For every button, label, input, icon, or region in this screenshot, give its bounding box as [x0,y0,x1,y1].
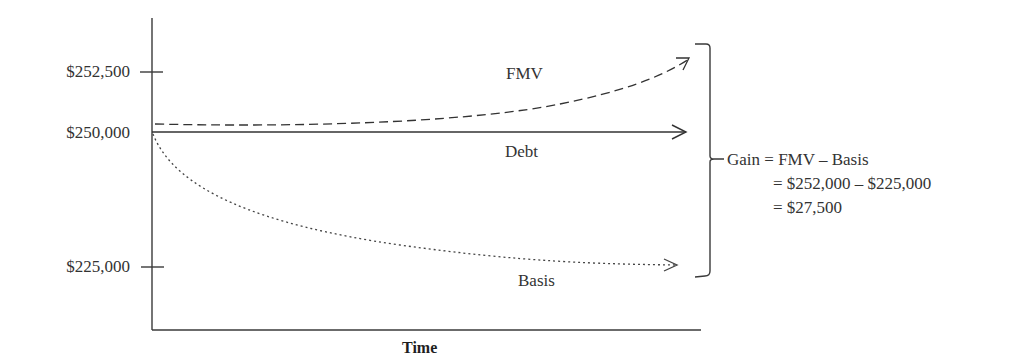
y-tick-label-225000: $225,000 [0,257,130,277]
basis-arrowhead-icon [664,259,677,271]
gain-brace [695,44,724,277]
gain-line-3: = $27,500 [773,198,842,218]
basis-label: Basis [518,271,555,291]
x-axis-label: Time [402,338,437,358]
basis-series [153,134,677,271]
gain-diagram: $252,500 $250,000 $225,000 FMV Debt Basi… [0,0,1019,364]
fmv-label: FMV [506,64,543,84]
debt-label: Debt [505,142,538,162]
gain-line-1: Gain = FMV – Basis [727,150,869,170]
axes [140,18,701,330]
fmv-series [155,58,689,125]
y-tick-label-252500: $252,500 [0,62,130,82]
debt-series [152,125,686,139]
y-tick-label-250000: $250,000 [0,123,130,143]
gain-line-2: = $252,000 – $225,000 [773,174,931,194]
fmv-arrowhead-icon [676,58,689,70]
